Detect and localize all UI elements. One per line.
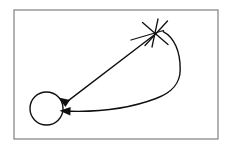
- diagram-canvas: [0, 0, 234, 151]
- border-rectangle: [14, 10, 218, 139]
- diagram-svg: [0, 0, 234, 151]
